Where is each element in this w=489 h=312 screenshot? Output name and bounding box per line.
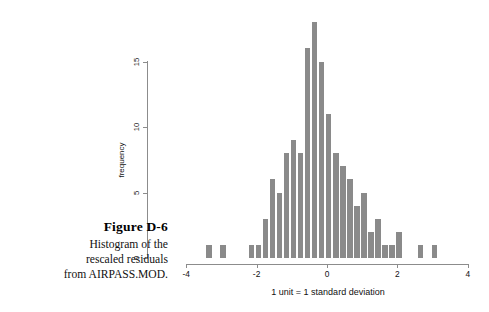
histogram-bar [354,206,359,258]
histogram-bar [326,114,331,258]
y-axis-tick [143,62,147,63]
histogram-bar [256,245,261,258]
x-axis-tick-label: 2 [395,269,400,279]
x-axis-tick [468,264,469,268]
histogram-bar [375,219,380,258]
histogram-bar [312,22,317,258]
histogram-bar [291,140,296,258]
x-axis-tick [257,264,258,268]
y-axis-tick-label: 15 [132,57,141,65]
y-axis-tick [143,127,147,128]
y-axis-tick-label: 5 [132,190,141,194]
x-axis-tick [186,264,187,268]
figure-number: Figure D-6 [8,218,168,236]
caption-line-3: from AIRPASS.MOD. [8,267,168,282]
x-axis-line [187,264,469,265]
histogram-bar [382,245,387,258]
histogram-bar [347,179,352,258]
histogram-bar [305,48,310,258]
caption-line-1: Histogram of the [8,237,168,252]
plot-area [147,16,477,258]
x-axis-tick-label: 0 [325,269,330,279]
histogram-bar [333,153,338,258]
x-axis-tick-label: 4 [465,269,470,279]
histogram-bar [206,245,211,258]
y-axis-tick [143,193,147,194]
histogram-bar [418,245,423,258]
y-axis-title: frequency [117,142,126,177]
x-axis-tick [327,264,328,268]
histogram-bar [432,245,437,258]
caption-line-2: rescaled residuals [8,252,168,267]
x-axis-tick-label: -4 [182,269,189,279]
x-axis-title: 1 unit = 1 standard deviation [271,287,384,297]
histogram-bar [361,193,366,259]
histogram-bar [249,245,254,258]
histogram-bar [389,245,394,258]
figure-caption: Figure D-6 Histogram of the rescaled res… [8,218,168,283]
histogram-bar [284,153,289,258]
histogram-bar [277,193,282,259]
histogram-bar [319,62,324,259]
histogram-bar [368,232,373,258]
x-axis-tick-label: -2 [253,269,260,279]
histogram-bar [396,232,401,258]
histogram-bar [298,153,303,258]
histogram-bar [220,245,225,258]
x-axis-tick [397,264,398,268]
histogram-bar [263,219,268,258]
y-axis-tick-label: 10 [132,123,141,131]
histogram-bar [270,179,275,258]
histogram-bar [340,166,345,258]
